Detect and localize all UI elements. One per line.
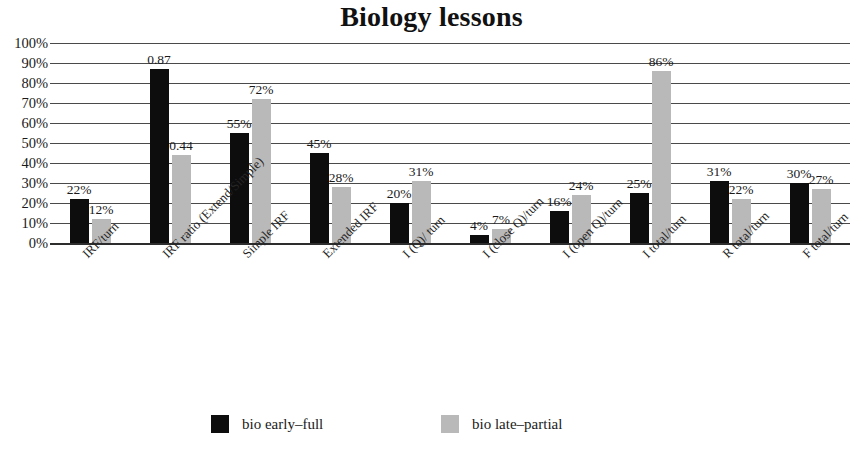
legend-item[interactable]: bio early–full xyxy=(211,412,323,436)
y-axis-tick-label: 10% xyxy=(2,216,48,230)
gridline xyxy=(50,43,850,44)
bar-value-label: 27% xyxy=(799,173,843,186)
bar-value-label: 0.44 xyxy=(159,139,203,152)
bar-value-label: 28% xyxy=(319,171,363,184)
bar xyxy=(470,235,489,243)
bar-chart: Biology lessons 100%90%80%70%60%50%40%30… xyxy=(0,0,863,451)
bar xyxy=(790,183,809,243)
bar-value-label: 45% xyxy=(297,137,341,150)
x-axis-category-labels: IRF/turnIRF ratio (Extend/Simple)Simple … xyxy=(0,243,863,383)
bar-value-label: 22% xyxy=(719,183,763,196)
gridline xyxy=(50,223,850,224)
bar-value-label: 22% xyxy=(57,183,101,196)
gridline xyxy=(50,83,850,84)
y-axis-tick-label: 30% xyxy=(2,176,48,190)
legend-label: bio late–partial xyxy=(472,415,562,433)
gridline xyxy=(50,123,850,124)
y-axis-ticks: 100%90%80%70%60%50%40%30%20%10%0% xyxy=(0,43,48,243)
gridline xyxy=(50,203,850,204)
bar xyxy=(390,203,409,243)
bar-value-label: 31% xyxy=(399,165,443,178)
bar-value-label: 86% xyxy=(639,55,683,68)
legend-swatch-icon xyxy=(441,415,459,433)
y-axis-tick-label: 50% xyxy=(2,136,48,150)
y-axis-tick-label: 70% xyxy=(2,96,48,110)
bar xyxy=(150,69,169,243)
chart-title: Biology lessons xyxy=(0,1,863,33)
bar xyxy=(630,193,649,243)
legend-item[interactable]: bio late–partial xyxy=(441,412,562,436)
bar-value-label: 24% xyxy=(559,179,603,192)
y-axis-tick-label: 90% xyxy=(2,56,48,70)
bar xyxy=(652,71,671,243)
legend-swatch-icon xyxy=(211,415,229,433)
plot-area: 22%12%0.870.4455%72%45%28%20%31%4%7%16%2… xyxy=(50,43,850,243)
bar-value-label: 12% xyxy=(79,203,123,216)
y-axis-tick-label: 40% xyxy=(2,156,48,170)
chart-legend: bio early–fullbio late–partial xyxy=(0,412,863,450)
y-axis-tick-label: 100% xyxy=(2,36,48,50)
bar-value-label: 72% xyxy=(239,83,283,96)
y-axis-tick-label: 60% xyxy=(2,116,48,130)
bar xyxy=(550,211,569,243)
y-axis-tick-label: 80% xyxy=(2,76,48,90)
bar-value-label: 31% xyxy=(697,165,741,178)
bar xyxy=(310,153,329,243)
y-axis-tick-label: 20% xyxy=(2,196,48,210)
gridline xyxy=(50,103,850,104)
bar-value-label: 0.87 xyxy=(137,53,181,66)
legend-label: bio early–full xyxy=(242,415,323,433)
